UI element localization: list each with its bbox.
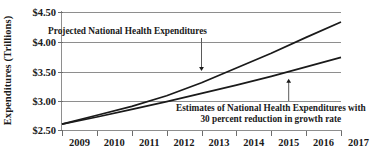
- x-tick-mark: [202, 131, 203, 136]
- x-tick-label: 2016: [313, 137, 334, 148]
- x-tick-label: 2013: [208, 137, 229, 148]
- x-tick-mark: [236, 131, 237, 136]
- x-tick-mark: [271, 131, 272, 136]
- annotation-estimates-line1: Estimates of National Health Expenditure…: [176, 103, 366, 114]
- x-tick-label: 2010: [104, 137, 125, 148]
- annotation-projected-text: Projected National Health Expenditures: [48, 26, 207, 37]
- x-tick-label: 2015: [278, 137, 299, 148]
- x-tick-mark: [306, 131, 307, 136]
- annotation-estimates: Estimates of National Health Expenditure…: [176, 103, 366, 124]
- chart-container: Expenditures (Trillions) $2.50 $3.00 $3.…: [0, 0, 383, 163]
- y-axis-tick-labels: $2.50 $3.00 $3.50 $4.00 $4.50: [12, 0, 56, 163]
- x-tick-mark: [167, 131, 168, 136]
- y-tick-label: $4.00: [12, 36, 56, 47]
- x-tick-label: 2011: [139, 137, 159, 148]
- y-tick-label: $3.50: [12, 66, 56, 77]
- x-tick-label: 2014: [243, 137, 264, 148]
- x-tick-label: 2012: [174, 137, 195, 148]
- y-tick-label: $3.00: [12, 96, 56, 107]
- x-tick-mark: [97, 131, 98, 136]
- y-tick-label: $2.50: [12, 125, 56, 136]
- x-tick-mark: [132, 131, 133, 136]
- annotation-projected: Projected National Health Expenditures: [48, 26, 207, 37]
- annotation-estimates-line2: 30 percent reduction in growth rate: [176, 114, 366, 125]
- x-tick-label: 2009: [69, 137, 90, 148]
- x-tick-mark: [341, 131, 342, 136]
- x-tick-label: 2017: [348, 137, 369, 148]
- y-tick-label: $4.50: [12, 7, 56, 18]
- x-tick-mark: [62, 131, 63, 136]
